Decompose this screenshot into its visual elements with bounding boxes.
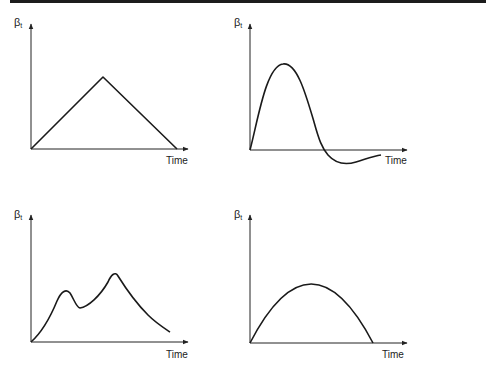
panel-4-x-label: Time	[382, 349, 404, 360]
curve-triangular	[31, 77, 177, 149]
panel-3-x-label: Time	[166, 349, 188, 360]
panel-1-axes	[31, 24, 188, 149]
curve-parabolic	[250, 284, 373, 343]
panel-3-y-label: βt	[14, 208, 22, 221]
panel-2-x-label: Time	[385, 155, 407, 166]
panel-4-y-label: βt	[234, 208, 242, 221]
response-curves-figure	[0, 0, 486, 367]
panel-2-axes	[250, 24, 407, 150]
curve-bimodal	[31, 274, 170, 342]
panel-1-y-label: βt	[14, 16, 22, 29]
panel-2-y-label: βt	[234, 16, 242, 29]
panel-4-axes	[250, 215, 407, 343]
panel-1-x-label: Time	[166, 155, 188, 166]
curve-peak-dip	[250, 64, 381, 164]
